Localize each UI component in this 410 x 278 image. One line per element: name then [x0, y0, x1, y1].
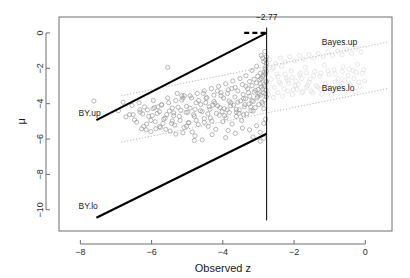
y-tick-label: −10	[35, 202, 45, 217]
y-tick-label: −2	[35, 63, 45, 73]
plot-canvas: −8−6−4−20Observed z0−2−4−6−8−10μ−2.77BY.…	[0, 0, 410, 278]
y-tick-label: −8	[35, 169, 45, 179]
bayes-up-label: Bayes.up	[322, 37, 358, 47]
scatter-plot-figure: −8−6−4−20Observed z0−2−4−6−8−10μ−2.77BY.…	[0, 0, 410, 278]
bayes-lo-label: Bayes.lo	[322, 83, 355, 93]
x-axis-title: Observed z	[195, 262, 251, 274]
y-tick-label: −4	[35, 99, 45, 109]
x-tick-label: −8	[75, 247, 85, 257]
by-up-label: BY.up	[79, 108, 101, 118]
y-tick-label: −6	[35, 134, 45, 144]
by-lo-label: BY.lo	[79, 201, 98, 211]
y-tick-label: 0	[35, 30, 45, 35]
x-tick-label: −6	[146, 247, 156, 257]
x-tick-label: −2	[289, 247, 299, 257]
y-axis-title: μ	[15, 118, 27, 124]
x-tick-label: 0	[363, 247, 368, 257]
x-tick-label: −4	[218, 247, 228, 257]
cutoff-label: −2.77	[256, 12, 278, 22]
